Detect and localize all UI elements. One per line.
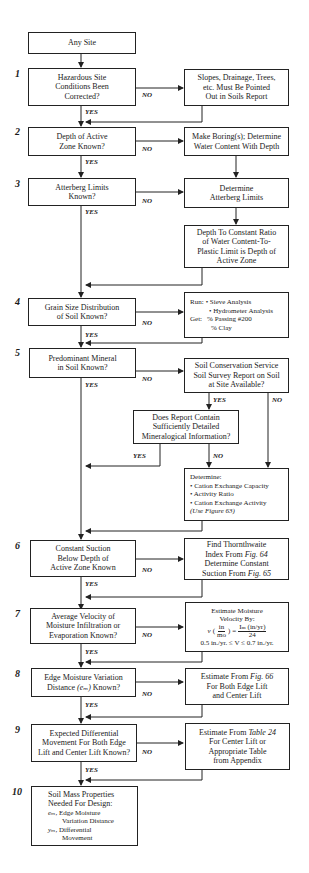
- text: Average Velocity of: [51, 612, 115, 622]
- no-label: NO: [142, 145, 152, 153]
- no-label: NO: [142, 566, 152, 574]
- text: from Appendix: [213, 756, 262, 766]
- yes-label: YES: [85, 766, 98, 774]
- step-number-5: 5: [15, 347, 20, 358]
- step-3-active-zone-box: Depth To Constant Ratio of Water Content…: [184, 225, 289, 268]
- text: at Site Available?: [209, 380, 265, 390]
- text: Below Depth of: [57, 554, 108, 564]
- text: mo: [217, 632, 226, 639]
- step-8-question: Edge Moisture Variation Distance (eₘ) Kn…: [31, 668, 136, 697]
- yes-label: YES: [85, 208, 98, 216]
- text: of Soil Known?: [57, 312, 108, 322]
- text: Mineralogical Information?: [142, 432, 231, 442]
- step-number-8: 8: [15, 668, 20, 679]
- yes-label: YES: [85, 648, 98, 656]
- text: of Water Content-To-: [202, 237, 270, 247]
- text: Active Zone: [217, 256, 257, 266]
- text: v: [208, 627, 211, 636]
- text: Edge Moisture: [59, 809, 100, 817]
- text: Soil Survey Report on Soil: [193, 371, 279, 381]
- text: Estimate From: [199, 728, 248, 737]
- text: Estimate From: [201, 672, 250, 681]
- text: Hazardous Site: [58, 73, 107, 83]
- text: • Hydrometer Analysis: [190, 307, 273, 316]
- variable: eₘ,: [48, 809, 57, 817]
- no-label: NO: [142, 91, 152, 99]
- yes-label: YES: [213, 396, 226, 404]
- text: Appropriate Table: [208, 747, 266, 757]
- step-number-7: 7: [15, 608, 20, 619]
- step-9-no-action: Estimate From Table 24 For Center Lift o…: [185, 723, 290, 770]
- text: Find Thornthwaite: [207, 540, 267, 550]
- start-label: Any Site: [68, 38, 96, 48]
- step-7-question: Average Velocity of Moisture Infiltratio…: [30, 608, 136, 644]
- text: Known?: [68, 192, 95, 202]
- no-label: NO: [142, 375, 152, 383]
- yes-label: YES: [85, 108, 98, 116]
- step-number-3: 3: [15, 178, 20, 189]
- text: Atterberg Limits: [210, 193, 263, 203]
- text: Sufficiently Detailed: [153, 422, 220, 432]
- text: Evaporation Known?: [49, 631, 117, 641]
- step-number-10: 10: [12, 786, 22, 797]
- text: Distance: [47, 683, 77, 692]
- text: Active Zone Known: [50, 563, 115, 573]
- text: Estimate Moisture: [211, 607, 263, 616]
- text: 24: [249, 632, 256, 639]
- step-number-2: 2: [15, 126, 20, 137]
- text: • Sieve Analysis: [206, 298, 252, 307]
- text: and Center Lift: [213, 691, 262, 701]
- text: Suction From: [202, 569, 248, 578]
- text: Out in Soils Report: [205, 92, 267, 102]
- text: For Both Edge Lift: [206, 682, 267, 692]
- step-1-no-action: Slopes, Drainage, Trees, etc. Must Be Po…: [184, 69, 289, 106]
- yes-label: YES: [85, 701, 98, 709]
- variable: yₘ,: [48, 826, 57, 834]
- figure-reference: (Use Figure 63): [190, 507, 235, 516]
- text: Determine:: [190, 473, 222, 482]
- text: Lift and Center Lift Known?: [38, 748, 130, 758]
- text: % Clay: [190, 324, 232, 333]
- text: Predominant Mineral: [48, 354, 116, 364]
- run-label: Run:: [190, 298, 204, 307]
- step-3-question: Atterberg Limits Known?: [28, 178, 136, 206]
- text: Soil Mass Properties: [48, 790, 114, 800]
- velocity-formula: v ( inmo ) = Iₘ (in/yr)24: [208, 624, 267, 639]
- text: Atterberg Limits: [55, 183, 108, 193]
- step-4-question: Grain Size Distribution of Soil Known?: [28, 298, 136, 326]
- text: % Passing #200: [204, 315, 252, 324]
- figure-reference: Fig. 64: [245, 550, 268, 559]
- step-5-sub-question: Does Report Contain Sufficiently Detaile…: [133, 410, 239, 444]
- step-1-question: Hazardous Site Conditions Been Corrected…: [28, 68, 136, 106]
- text: Water Content With Depth: [194, 142, 279, 152]
- step-4-no-action: Run:• Sieve Analysis • Hydrometer Analys…: [184, 292, 289, 338]
- step-6-no-action: Find Thornthwaite Index From Fig. 64 Det…: [184, 538, 289, 580]
- step-7-no-action: Estimate Moisture Velocity By: v ( inmo …: [185, 602, 289, 652]
- text: • Cation Exchange Capacity: [190, 482, 269, 491]
- start-box: Any Site: [28, 32, 136, 54]
- step-5-question: Predominant Mineral in Soil Known?: [29, 348, 136, 378]
- text: For Center Lift or: [209, 737, 266, 747]
- get-label: Get:: [190, 315, 202, 324]
- text: Determine: [220, 184, 254, 194]
- no-label: NO: [213, 452, 223, 460]
- text: in Soil Known?: [57, 363, 107, 373]
- figure-reference: Fig. 66: [250, 672, 273, 681]
- text: etc. Must Be Pointed: [203, 83, 270, 93]
- no-label: NO: [142, 748, 152, 756]
- step-2-no-action: Make Boring(s); Determine Water Content …: [184, 127, 289, 156]
- text: Plastic Limit is Depth of: [197, 247, 276, 257]
- no-label: NO: [272, 396, 282, 404]
- text: Index From: [205, 550, 245, 559]
- step-9-question: Expected Differential Movement For Both …: [31, 724, 137, 762]
- no-label: NO: [142, 690, 152, 698]
- yes-label: YES: [133, 452, 146, 460]
- text: Determine Constant: [204, 559, 268, 569]
- text: Conditions Been: [55, 82, 109, 92]
- text: Needed For Design:: [48, 799, 112, 809]
- text: Does Report Contain: [152, 413, 220, 423]
- text: =: [232, 627, 236, 636]
- step-number-6: 6: [15, 540, 20, 551]
- variable: (eₘ): [77, 683, 91, 692]
- text: • Activity Ratio: [190, 490, 234, 499]
